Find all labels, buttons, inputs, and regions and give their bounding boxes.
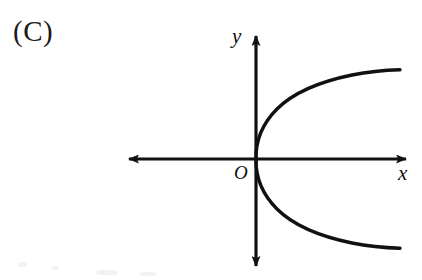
parabola-upper-branch — [256, 70, 400, 159]
choice-label: (C) — [13, 17, 53, 46]
coordinate-plane-graphic — [0, 0, 422, 280]
figure-container: (C) y x O — [0, 0, 422, 280]
origin-label: O — [234, 163, 248, 182]
x-axis-label: x — [398, 163, 407, 184]
y-axis-label: y — [232, 26, 241, 47]
parabola-lower-branch — [256, 159, 400, 248]
